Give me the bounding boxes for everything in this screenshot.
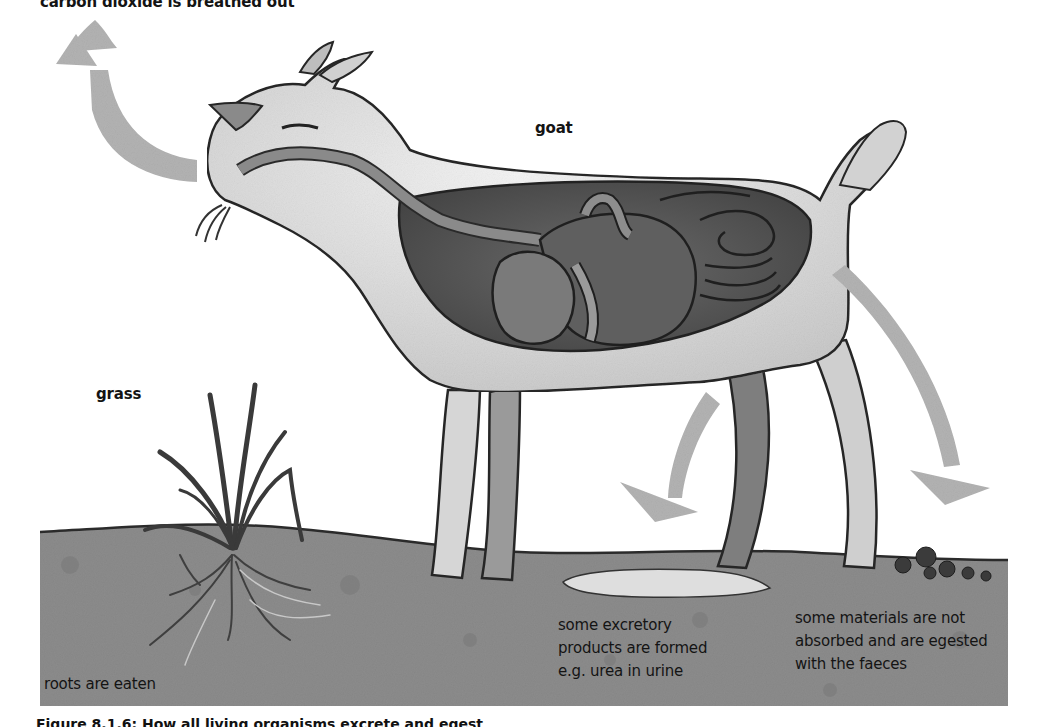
goat-beard (196, 205, 230, 242)
goat-excretion-diagram: carbon dioxide is breathed out goat gras… (0, 0, 1042, 727)
egested-label: some materials are not absorbed and are … (795, 607, 988, 676)
urine-arrow (620, 392, 720, 522)
grass-label: grass (96, 384, 141, 404)
goat-label: goat (535, 118, 573, 138)
co2-arrow (56, 20, 197, 182)
figure-caption: Figure 8.1.6: How all living organisms e… (36, 716, 483, 727)
excretory-label: some excretory products are formed e.g. … (558, 614, 707, 683)
co2-label: carbon dioxide is breathed out (40, 0, 294, 12)
roots-label: roots are eaten (44, 674, 156, 694)
